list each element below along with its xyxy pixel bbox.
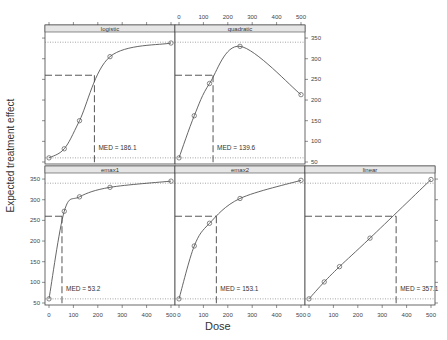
- y-tick-label: 350: [30, 176, 41, 182]
- y-tick-label: 300: [311, 56, 322, 62]
- x-tick-label: 500: [426, 312, 437, 318]
- panel-strip-label: quadratic: [228, 26, 253, 32]
- y-axis-label: Expected treatment effect: [5, 86, 16, 226]
- y-tick-label: 300: [30, 197, 41, 203]
- panel-strip-label: emax2: [231, 167, 250, 173]
- x-tick-label: 300: [247, 312, 258, 318]
- med-label: MED = 186.1: [98, 144, 137, 151]
- x-tick-label: 200: [223, 14, 234, 20]
- x-tick-label: 0: [307, 312, 311, 318]
- x-tick-label: 0: [177, 312, 181, 318]
- y-tick-label: 350: [311, 35, 322, 41]
- y-tick-label: 200: [311, 97, 322, 103]
- x-axis-label: Dose: [205, 320, 231, 332]
- x-tick-label: 400: [402, 312, 413, 318]
- panel-strip-label: logistic: [101, 26, 119, 32]
- x-tick-label: 500: [296, 14, 307, 20]
- y-tick-label: 200: [30, 238, 41, 244]
- x-tick-label: 400: [272, 312, 283, 318]
- y-tick-label: 150: [30, 259, 41, 265]
- y-tick-label: 50: [311, 159, 318, 165]
- y-tick-label: 100: [311, 138, 322, 144]
- med-label: MED = 357.1: [400, 285, 439, 292]
- x-tick-label: 500: [296, 312, 307, 318]
- med-label: MED = 139.6: [217, 144, 256, 151]
- x-tick-label: 200: [353, 312, 364, 318]
- x-tick-label: 200: [223, 312, 234, 318]
- chart-container: logisticMED = 186.1quadraticMED = 139.60…: [0, 0, 447, 340]
- x-tick-label: 0: [47, 312, 51, 318]
- y-tick-label: 150: [311, 118, 322, 124]
- x-tick-label: 100: [68, 312, 79, 318]
- x-tick-label: 0: [177, 14, 181, 20]
- x-tick-label: 100: [328, 312, 339, 318]
- y-tick-label: 50: [33, 300, 40, 306]
- y-tick-label: 250: [30, 217, 41, 223]
- x-tick-label: 400: [142, 312, 153, 318]
- x-tick-label: 400: [272, 14, 283, 20]
- x-tick-label: 300: [377, 312, 388, 318]
- med-label: MED = 53.2: [66, 285, 101, 292]
- trellis-plot: logisticMED = 186.1quadraticMED = 139.60…: [0, 0, 447, 340]
- panel-emax1: [45, 166, 175, 305]
- x-tick-label: 200: [93, 312, 104, 318]
- x-tick-label: 500: [166, 312, 177, 318]
- x-tick-label: 300: [117, 312, 128, 318]
- y-tick-label: 100: [30, 279, 41, 285]
- med-label: MED = 153.1: [220, 285, 259, 292]
- x-tick-label: 300: [247, 14, 258, 20]
- panel-strip-label: linear: [363, 167, 378, 173]
- panel-strip-label: emax1: [101, 167, 120, 173]
- y-tick-label: 250: [311, 76, 322, 82]
- x-tick-label: 100: [198, 312, 209, 318]
- x-tick-label: 100: [198, 14, 209, 20]
